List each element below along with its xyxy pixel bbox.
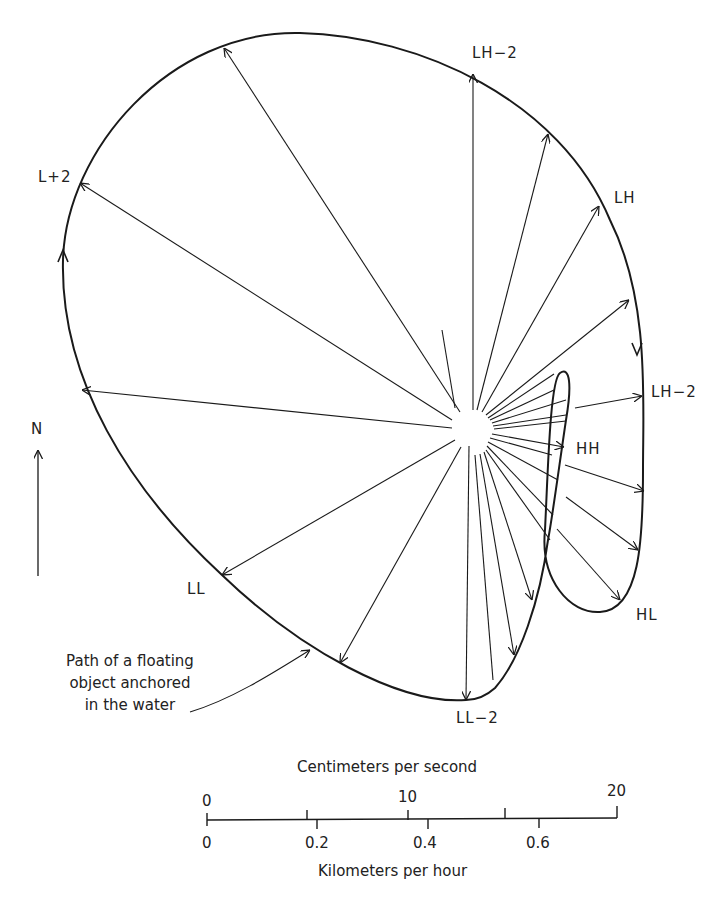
cm-tick-20: 20 <box>607 782 626 800</box>
label-lh2-top: LH−2 <box>472 44 518 62</box>
cm-tick-10: 10 <box>398 788 417 806</box>
label-lh2-right: LH−2 <box>651 383 697 401</box>
km-tick-0-6: 0.6 <box>526 834 550 852</box>
label-ll: LL <box>187 580 206 598</box>
km-tick-0-2: 0.2 <box>305 834 329 852</box>
label-lh: LH <box>614 189 636 207</box>
km-tick-0-4: 0.4 <box>413 834 437 852</box>
scale-bar <box>207 806 617 829</box>
caption-line-1: Path of a floating <box>50 650 210 672</box>
caption-line-3: in the water <box>50 694 210 716</box>
caption-line-2: object anchored <box>50 672 210 694</box>
path-curve <box>63 33 644 700</box>
label-ll2: LL−2 <box>456 709 499 727</box>
scale-title-cm: Centimeters per second <box>297 758 477 776</box>
path-caption: Path of a floating object anchored in th… <box>50 650 210 716</box>
label-north: N <box>31 420 42 438</box>
label-l-plus-2: L+2 <box>38 168 71 186</box>
cm-tick-0: 0 <box>202 792 212 810</box>
scale-title-km: Kilometers per hour <box>318 862 467 880</box>
label-hh: HH <box>576 440 601 458</box>
label-hl: HL <box>636 606 658 624</box>
km-tick-0: 0 <box>202 834 212 852</box>
